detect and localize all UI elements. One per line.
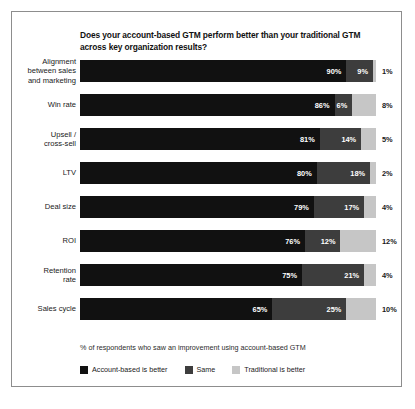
bar-segment-traditional <box>370 162 376 184</box>
bar-row-traditional-value: 2% <box>382 169 404 178</box>
bar-track: 79%17% <box>80 196 376 218</box>
bar-segment-account-based: 79% <box>80 196 314 218</box>
bar-row-label: Sales cycle <box>14 304 76 313</box>
bar-row-traditional-value: 4% <box>382 203 404 212</box>
legend-label: Same <box>197 365 216 374</box>
bar-segment-value: 80% <box>297 169 312 178</box>
bar-segment-account-based: 81% <box>80 128 320 150</box>
bar-segment-same: 12% <box>305 230 341 252</box>
bar-segment-value: 81% <box>300 135 315 144</box>
bar-segment-value: 18% <box>350 169 365 178</box>
bar-segment-value: 25% <box>327 305 342 314</box>
bar-track: 76%12% <box>80 230 376 252</box>
bar-segment-traditional <box>340 230 376 252</box>
bar-segment-value: 6% <box>337 101 348 110</box>
bar-segment-traditional <box>373 60 376 82</box>
bar-track: 81%14% <box>80 128 376 150</box>
bar-segment-same: 18% <box>317 162 370 184</box>
bar-row-label: Retentionrate <box>14 266 76 285</box>
bar-row-traditional-value: 1% <box>382 67 404 76</box>
bar-segment-same: 6% <box>335 94 353 116</box>
bar-row-label: ROI <box>14 236 76 245</box>
bar-segment-same: 21% <box>302 264 364 286</box>
bar-segment-value: 65% <box>253 305 268 314</box>
chart-legend: Account-based is betterSameTraditional i… <box>80 365 305 374</box>
bar-segment-value: 90% <box>327 67 342 76</box>
bar-segment-value: 86% <box>315 101 330 110</box>
chart-title: Does your account-based GTM perform bett… <box>80 29 388 53</box>
bar-segment-value: 76% <box>285 237 300 246</box>
bar-segment-traditional <box>352 94 376 116</box>
chart-bar-row: Alignmentbetween salesand marketing90%9%… <box>12 60 401 82</box>
chart-card: Does your account-based GTM perform bett… <box>11 11 402 387</box>
legend-item: Traditional is better <box>232 365 305 374</box>
bar-segment-traditional <box>364 196 376 218</box>
bar-row-traditional-value: 12% <box>382 237 404 246</box>
bar-segment-traditional <box>346 298 376 320</box>
bar-track: 86%6% <box>80 94 376 116</box>
bar-segment-same: 9% <box>346 60 373 82</box>
bar-row-label: LTV <box>14 168 76 177</box>
bar-segment-account-based: 75% <box>80 264 302 286</box>
bar-track: 80%18% <box>80 162 376 184</box>
bar-row-label: Deal size <box>14 202 76 211</box>
chart-bar-row: Upsell /cross-sell81%14%5% <box>12 128 401 150</box>
legend-swatch-icon <box>185 366 193 374</box>
bar-row-label: Win rate <box>14 100 76 109</box>
axis-caption: % of respondents who saw an improvement … <box>80 343 306 352</box>
legend-swatch-icon <box>80 366 88 374</box>
legend-label: Traditional is better <box>244 365 305 374</box>
bar-row-traditional-value: 10% <box>382 305 404 314</box>
bar-segment-value: 12% <box>321 237 336 246</box>
bar-segment-value: 17% <box>344 203 359 212</box>
bar-row-traditional-value: 5% <box>382 135 404 144</box>
bar-track: 65%25% <box>80 298 376 320</box>
legend-label: Account-based is better <box>92 365 168 374</box>
bar-row-traditional-value: 4% <box>382 271 404 280</box>
legend-item: Same <box>185 365 216 374</box>
bar-segment-value: 75% <box>282 271 297 280</box>
chart-bar-row: Sales cycle65%25%10% <box>12 298 401 320</box>
chart-bar-row: ROI76%12%12% <box>12 230 401 252</box>
bar-track: 75%21% <box>80 264 376 286</box>
bar-segment-account-based: 65% <box>80 298 272 320</box>
bar-segment-same: 17% <box>314 196 364 218</box>
bar-track: 90%9% <box>80 60 376 82</box>
bar-segment-same: 14% <box>320 128 361 150</box>
chart-bar-row: Deal size79%17%4% <box>12 196 401 218</box>
bar-segment-same: 25% <box>272 298 346 320</box>
legend-swatch-icon <box>232 366 240 374</box>
bar-row-label: Alignmentbetween salesand marketing <box>14 57 76 85</box>
chart-bar-row: Win rate86%6%8% <box>12 94 401 116</box>
bar-segment-value: 79% <box>294 203 309 212</box>
chart-bar-row: Retentionrate75%21%4% <box>12 264 401 286</box>
chart-plot-area: Alignmentbetween salesand marketing90%9%… <box>12 60 401 332</box>
bar-segment-account-based: 76% <box>80 230 305 252</box>
bar-segment-traditional <box>364 264 376 286</box>
legend-item: Account-based is better <box>80 365 168 374</box>
bar-row-traditional-value: 8% <box>382 101 404 110</box>
bar-row-label: Upsell /cross-sell <box>14 130 76 149</box>
bar-segment-account-based: 80% <box>80 162 317 184</box>
chart-bar-row: LTV80%18%2% <box>12 162 401 184</box>
bar-segment-value: 9% <box>357 67 368 76</box>
bar-segment-account-based: 86% <box>80 94 335 116</box>
bar-segment-traditional <box>361 128 376 150</box>
bar-segment-account-based: 90% <box>80 60 346 82</box>
bar-segment-value: 21% <box>344 271 359 280</box>
bar-segment-value: 14% <box>341 135 356 144</box>
